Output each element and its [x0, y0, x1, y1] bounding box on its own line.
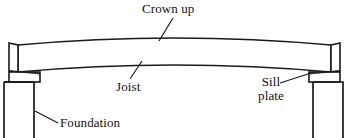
joist-end-right-rect — [331, 43, 340, 72]
foundation-wall-right-outline — [313, 82, 343, 138]
label-sill-plate-line1: Sill — [248, 75, 294, 89]
label-joist: Joist — [116, 80, 140, 94]
joist-end-left — [9, 43, 18, 72]
foundation-leader — [35, 111, 58, 123]
foundation-wall-left — [4, 82, 34, 138]
diagram-canvas — [0, 0, 349, 138]
foundation-wall-left-outline — [4, 82, 34, 138]
sill-plate-left — [9, 70, 40, 82]
label-crown-up: Crown up — [142, 2, 194, 16]
joist-end-left-rect — [9, 43, 18, 72]
sill-plate-right — [309, 70, 340, 82]
label-sill-plate: Sill plate — [248, 75, 294, 102]
label-sill-plate-line2: plate — [248, 89, 294, 103]
joist-body — [18, 38, 331, 72]
joist-shape — [18, 38, 331, 72]
joist-crown-diagram: Crown up Joist Sill plate Foundation — [0, 0, 349, 138]
foundation-wall-right — [313, 82, 343, 138]
joist-end-right — [331, 43, 340, 72]
label-foundation: Foundation — [60, 116, 120, 130]
